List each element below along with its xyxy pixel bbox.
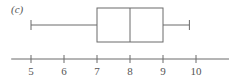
tick-label: 6 <box>61 65 67 77</box>
tick-label: 7 <box>94 65 100 77</box>
tick-label: 9 <box>160 65 166 77</box>
tick-label: 5 <box>28 65 34 77</box>
box-and-whisker <box>31 8 189 42</box>
tick-label: 8 <box>127 65 133 77</box>
tick-label: 10 <box>191 65 203 77</box>
boxplot-chart: 5678910 <box>0 0 235 82</box>
panel-label: (c) <box>11 3 23 15</box>
x-axis: 5678910 <box>11 55 229 77</box>
boxplot-figure: (c) 5678910 <box>0 0 235 82</box>
